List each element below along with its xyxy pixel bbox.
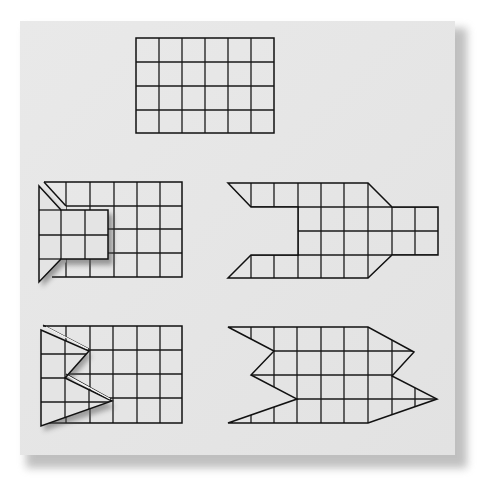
figure-canvas xyxy=(0,0,483,487)
figure-stage: Five grid-paper cut-and-fold figures on … xyxy=(0,0,483,487)
